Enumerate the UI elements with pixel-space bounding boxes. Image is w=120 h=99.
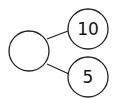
whole-circle xyxy=(9,31,49,71)
connector-bottom xyxy=(47,64,69,74)
number-bond-diagram: 10 5 xyxy=(0,0,120,99)
connector-top xyxy=(47,31,68,39)
part-label-bottom: 5 xyxy=(83,67,94,87)
part-label-top: 10 xyxy=(77,19,99,39)
